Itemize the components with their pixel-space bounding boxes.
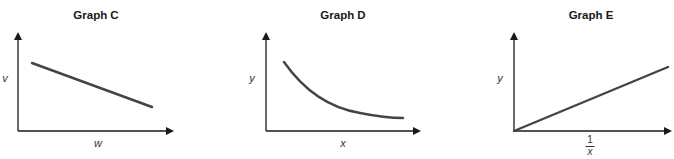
graph-e-x-label-denominator: x <box>586 147 595 157</box>
graph-c-x-label: w <box>94 137 102 149</box>
graph-c-title: Graph C <box>73 9 118 21</box>
graph-d-curve <box>284 62 403 118</box>
graph-c-plot <box>18 34 172 131</box>
graph-e-title: Graph E <box>569 9 614 21</box>
graph-d-x-label: x <box>340 137 346 149</box>
graph-c-y-label: v <box>2 72 8 84</box>
graph-d-y-label: y <box>249 72 255 84</box>
graphs-canvas <box>0 0 674 159</box>
graph-e-x-label: 1 x <box>586 135 595 157</box>
graph-e-line <box>514 67 668 131</box>
graph-e-x-label-numerator: 1 <box>586 135 595 145</box>
graph-d-title: Graph D <box>320 9 365 21</box>
graph-d-plot <box>266 34 419 131</box>
graph-e-plot <box>514 34 670 131</box>
graph-c-line <box>32 63 152 107</box>
graph-e-y-label: y <box>497 72 503 84</box>
